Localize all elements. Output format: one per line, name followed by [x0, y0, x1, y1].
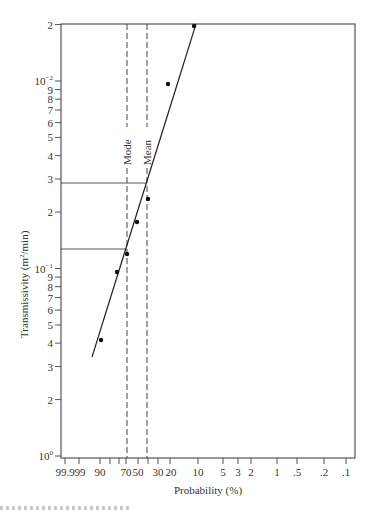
- cropped-caption: [0, 506, 373, 510]
- mode-label: Mode: [121, 139, 133, 165]
- fit-line: [92, 24, 196, 357]
- data-point: [115, 270, 119, 274]
- x-tick-label: 3: [235, 466, 241, 478]
- x-tick-label: 5: [220, 466, 226, 478]
- y-tick-label: 100: [39, 449, 54, 462]
- data-point: [192, 24, 196, 28]
- mean-label: Mean: [141, 139, 153, 165]
- y-tick-label: 2: [48, 19, 54, 31]
- x-tick-label: 70: [121, 466, 133, 478]
- probability-plot: 210−29876543210−198765432100 99.99990705…: [0, 0, 373, 510]
- x-tick-label: 99.9: [55, 466, 75, 478]
- y-tick-label: 2: [48, 394, 54, 406]
- data-point: [135, 220, 139, 224]
- x-tick-label: .5: [293, 466, 302, 478]
- x-tick-label: 2: [248, 466, 254, 478]
- y-tick-label: 7: [48, 292, 54, 304]
- y-tick-label: 2: [48, 206, 54, 218]
- x-tick-label: 1: [274, 466, 280, 478]
- x-axis-tick-labels: 99.9999070503020105321.5.2.1: [55, 466, 350, 478]
- data-point: [146, 197, 150, 201]
- x-tick-label: 50: [133, 466, 145, 478]
- data-point: [125, 252, 129, 256]
- y-axis-ticks: [55, 25, 61, 456]
- y-axis-tick-labels: 210−29876543210−198765432100: [35, 19, 54, 462]
- plot-frame: [61, 24, 355, 458]
- data-point: [166, 82, 170, 86]
- x-tick-label: 10: [193, 466, 205, 478]
- y-tick-label: 7: [48, 104, 54, 116]
- y-tick-label: 6: [48, 117, 54, 129]
- x-tick-label: .1: [342, 466, 350, 478]
- x-tick-label: 20: [166, 466, 178, 478]
- y-tick-label: 3: [48, 361, 54, 373]
- x-tick-label: .2: [320, 466, 328, 478]
- y-tick-label: 3: [48, 173, 54, 185]
- data-point: [99, 338, 103, 342]
- x-tick-label: 30: [153, 466, 165, 478]
- x-tick-label: 99: [75, 466, 87, 478]
- x-axis-title: Probability (%): [174, 484, 242, 497]
- x-axis-ticks: [65, 458, 346, 464]
- y-tick-label: 4: [48, 150, 54, 162]
- y-tick-label: 5: [48, 131, 54, 143]
- y-tick-label: 6: [48, 304, 54, 316]
- y-axis-title: Transmissivity (m2/min): [18, 230, 31, 338]
- x-tick-label: 90: [95, 466, 107, 478]
- y-tick-label: 4: [48, 337, 54, 349]
- y-tick-label: 5: [48, 319, 54, 331]
